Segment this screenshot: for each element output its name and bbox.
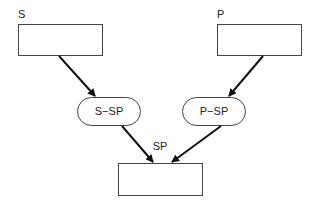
node-p: P [217, 8, 302, 56]
diagram-canvas: S P S−SP P−SP SP [0, 0, 318, 206]
node-s-sp-label: S−SP [95, 105, 123, 117]
edge-p-to-p-sp [229, 56, 263, 96]
edge-s-sp-to-sp [122, 126, 153, 162]
edge-p-sp-to-sp [172, 126, 221, 162]
node-s-label: S [18, 8, 25, 20]
edge-s-to-s-sp [59, 56, 95, 96]
node-sp-box [119, 164, 203, 196]
node-p-sp: P−SP [183, 98, 246, 126]
node-s: S [18, 8, 103, 56]
node-p-sp-label: P−SP [200, 105, 228, 117]
node-s-box [19, 25, 103, 56]
node-p-label: P [217, 8, 224, 20]
node-sp-label: SP [153, 140, 168, 152]
node-p-box [218, 25, 302, 56]
node-s-sp: S−SP [78, 98, 141, 126]
